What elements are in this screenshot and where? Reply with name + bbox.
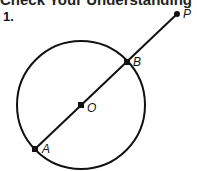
label-o: O [87,101,96,115]
label-a: A [41,142,50,156]
label-p: P [183,7,191,21]
point-a [32,146,38,152]
geometry-figure: P B O A [0,0,197,171]
label-b: B [133,55,141,69]
point-p [174,11,180,17]
point-b [124,59,130,65]
point-o [78,102,84,108]
line-ap [35,14,177,149]
